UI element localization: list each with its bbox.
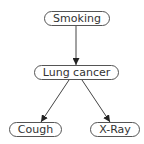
node-label: Cough (18, 123, 53, 136)
node-label: Lung cancer (43, 66, 110, 79)
node-label: X-Ray (99, 123, 131, 136)
node-cough[interactable]: Cough (9, 122, 62, 137)
node-label: Smoking (53, 12, 101, 25)
node-lung-cancer[interactable]: Lung cancer (34, 65, 119, 80)
edge-lung-cancer-to-cough (41, 80, 69, 122)
edge-lung-cancer-to-xray (82, 80, 110, 122)
node-smoking[interactable]: Smoking (44, 11, 110, 26)
node-xray[interactable]: X-Ray (90, 122, 140, 137)
